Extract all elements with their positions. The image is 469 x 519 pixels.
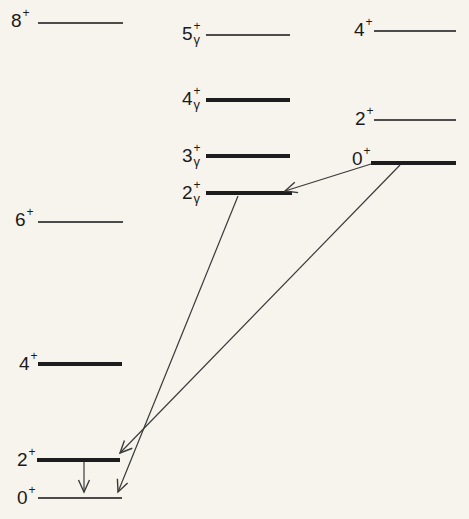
transition-arrow-gamma2-to-ground0	[118, 196, 238, 492]
transition-arrows-layer	[0, 0, 469, 519]
level-scheme-diagram: 8+ 6+ 4+ 2+ 0+ 5+γ 4+γ 3+γ 2+γ 4+ 2+ 0+	[0, 0, 469, 519]
transition-arrow-beta0-to-gamma2	[285, 164, 371, 191]
transition-arrow-beta0-to-ground2	[120, 165, 400, 453]
